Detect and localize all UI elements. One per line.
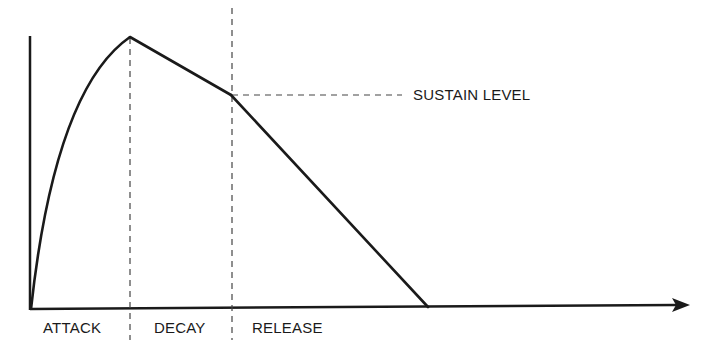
decay-line	[130, 37, 231, 95]
attack-label: ATTACK	[43, 319, 101, 336]
release-label: RELEASE	[252, 319, 323, 336]
decay-label: DECAY	[154, 319, 206, 336]
attack-curve	[31, 37, 130, 309]
adsr-envelope-diagram	[0, 0, 711, 356]
x-axis	[30, 305, 676, 309]
sustain-level-label: SUSTAIN LEVEL	[413, 86, 530, 103]
release-line	[231, 95, 428, 307]
